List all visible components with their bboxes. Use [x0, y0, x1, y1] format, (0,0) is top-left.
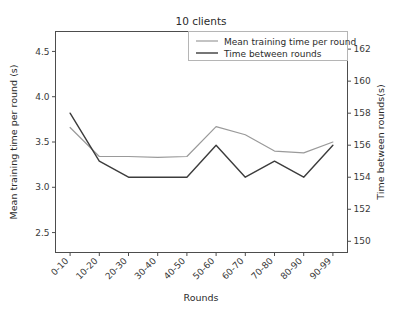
chart-title: 10 clients: [175, 15, 226, 27]
legend-label-mean-training-time: Mean training time per round: [224, 37, 356, 47]
y2-axis-label: Time between rounds(s): [375, 84, 386, 200]
right-tick-label: 158: [354, 108, 371, 118]
left-tick-label: 4.0: [35, 92, 50, 102]
x-axis-label: Rounds: [183, 292, 218, 303]
line-chart: 10 clients 2.53.03.54.04.5 1501521541561…: [0, 0, 398, 310]
left-tick-label: 3.5: [35, 137, 49, 147]
right-tick-label: 152: [354, 204, 371, 214]
right-tick-label: 154: [354, 172, 371, 182]
chart-figure: 10 clients 2.53.03.54.04.5 1501521541561…: [0, 0, 398, 310]
y-axis-label: Mean training time per round (s): [8, 65, 19, 220]
left-tick-label: 3.0: [35, 182, 50, 192]
chart-legend: Mean training time per round Time betwee…: [189, 32, 357, 61]
legend-label-time-between-rounds: Time between rounds: [223, 49, 322, 59]
right-tick-label: 156: [354, 140, 371, 150]
right-tick-label: 150: [354, 236, 371, 246]
left-tick-label: 4.5: [35, 47, 49, 57]
left-tick-label: 2.5: [35, 228, 49, 238]
right-tick-label: 160: [354, 76, 371, 86]
